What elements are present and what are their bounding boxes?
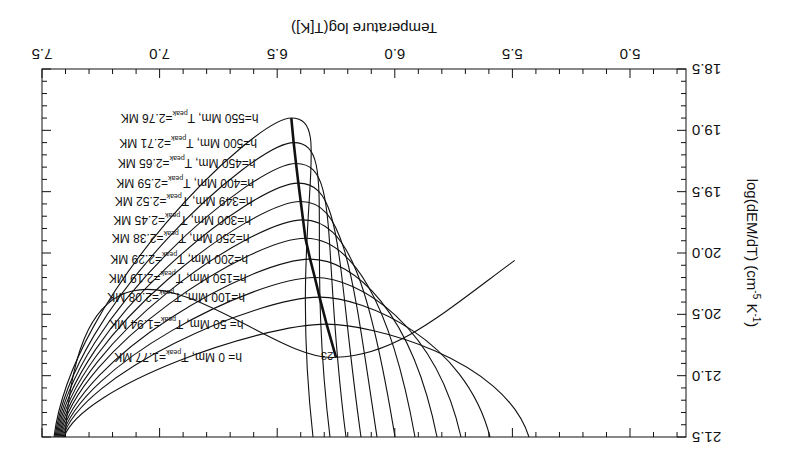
curve-labels: h= 0 Mm, Tpeak=1.77 MKh= 50 Mm, Tpeak=1.… xyxy=(107,109,258,364)
annotation-label: 23 xyxy=(321,350,333,362)
curve-label: h=550 Mm, Tpeak=2.76 MK xyxy=(121,109,259,125)
x-tick-label: 7.5 xyxy=(32,46,53,63)
rotated-figure: 5.0 5.5 6.0 6.5 7.0 7.5 Temperature log(… xyxy=(32,20,762,446)
y-tick-labels: 18.5 19.0 19.5 20.0 20.5 21.0 21.5 xyxy=(692,61,721,446)
curve-label: h=300 Mm, Tpeak=2.45 MK xyxy=(113,211,251,227)
curve-label: h=100 Mm, Tpeak=2.08 MK xyxy=(107,288,245,304)
y-tick-label: 20.5 xyxy=(692,306,721,323)
y-tick-label: 18.5 xyxy=(692,61,721,78)
x-tick-label: 5.0 xyxy=(620,46,641,63)
curve-label: h=250 Mm, Tpeak=2.38 MK xyxy=(112,229,250,245)
curve-label: h= 50 Mm, Tpeak=1.94 MK xyxy=(109,315,243,331)
curve-label: h=200 Mm, Tpeak=2.29 MK xyxy=(110,250,248,266)
y-tick-label: 20.0 xyxy=(692,245,721,262)
y-tick-label: 19.0 xyxy=(692,122,721,139)
dem-curve xyxy=(65,260,515,437)
dem-curve xyxy=(64,324,529,437)
y-tick-label: 19.5 xyxy=(692,184,721,201)
curve-label: h= 0 Mm, Tpeak=1.77 MK xyxy=(114,348,242,364)
chart-svg: 5.0 5.5 6.0 6.5 7.0 7.5 Temperature log(… xyxy=(0,0,787,456)
y-axis-label: log(dEM/dT) (cm-5 K-1) xyxy=(744,179,762,328)
y-tick-label: 21.5 xyxy=(692,429,721,446)
curve-label: h=150 Mm, Tpeak=2.19 MK xyxy=(109,269,247,285)
x-tick-label: 6.0 xyxy=(384,46,405,63)
curve-label: h=450 Mm, Tpeak=2.65 MK xyxy=(118,154,256,170)
dem-figure: 5.0 5.5 6.0 6.5 7.0 7.5 Temperature log(… xyxy=(0,0,787,456)
curve-label: h=500 Mm, Tpeak=2.71 MK xyxy=(119,134,257,150)
curve-label: h=400 Mm, Tpeak=2.59 MK xyxy=(116,174,254,190)
y-tick-label: 21.0 xyxy=(692,368,721,385)
x-tick-label: 7.0 xyxy=(149,46,170,63)
x-tick-labels: 5.0 5.5 6.0 6.5 7.0 7.5 xyxy=(32,46,641,63)
x-tick-label: 6.5 xyxy=(267,46,288,63)
curve-label: h=349 Mm, Tpeak=2.52 MK xyxy=(115,192,253,208)
x-tick-label: 5.5 xyxy=(502,46,523,63)
x-axis-label: Temperature log(T[K]) xyxy=(291,20,437,37)
